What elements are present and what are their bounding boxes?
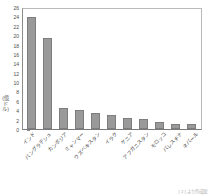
- y-tick-label: 20: [13, 34, 19, 39]
- bar-slot: [184, 9, 200, 129]
- y-tick-label: 24: [13, 15, 19, 20]
- y-tick-label: 22: [13, 24, 19, 29]
- y-tick-label: 8: [16, 90, 19, 95]
- y-tick-label: 2: [16, 118, 19, 123]
- y-tick-label: 6: [16, 99, 19, 104]
- bar: [27, 17, 37, 129]
- bar-slot: [136, 9, 152, 129]
- y-tick-label: 0: [16, 128, 19, 133]
- y-tick-label: 18: [13, 43, 19, 48]
- bar-slot: [88, 9, 104, 129]
- bar-series: [23, 9, 201, 129]
- bar: [43, 38, 53, 130]
- bar-slot: [40, 9, 56, 129]
- source-note: [ 2 ] より作成図: [178, 188, 207, 194]
- x-tick-label-text: イラク: [104, 132, 118, 147]
- y-tick-label: 12: [13, 71, 19, 76]
- x-axis-category-labels: インドバングラデシュカンボジアミャンマーウズベキスタンイラクケニアアフガニスタン…: [22, 131, 202, 181]
- plot-area: [22, 8, 202, 130]
- y-tick-label: 26: [13, 6, 19, 11]
- y-tick-label: 16: [13, 52, 19, 57]
- y-tick-label: 14: [13, 62, 19, 67]
- y-tick-label: 10: [13, 81, 19, 86]
- y-tick-label: 4: [16, 109, 19, 114]
- x-tick-label-text: ネパール: [182, 132, 200, 150]
- bar-slot: [24, 9, 40, 129]
- y-axis-tick-labels: 26242220181614121086420: [8, 8, 19, 130]
- bar-chart: (億ドル) 26242220181614121086420 インドバングラデシュ…: [0, 0, 210, 195]
